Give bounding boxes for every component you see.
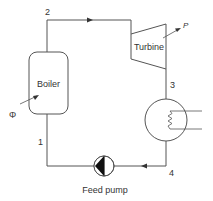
condenser <box>145 99 202 141</box>
pipe-state-2 <box>47 18 131 53</box>
state-label-1: 1 <box>38 137 43 147</box>
state-label-2: 2 <box>45 7 50 17</box>
pump-label: Feed pump <box>82 185 128 195</box>
state-label-3: 3 <box>170 80 175 90</box>
boiler-label: Boiler <box>37 79 60 89</box>
power-output-label: P <box>183 21 189 30</box>
heat-input-label: Φ <box>9 110 16 120</box>
feed-pump <box>94 156 114 176</box>
rankine-cycle-diagram: 2 Boiler Φ Turbine P 3 4 Feed pump <box>0 0 213 201</box>
arrow-head-icon <box>175 28 181 32</box>
turbine-label: Turbine <box>134 42 164 52</box>
state-label-4: 4 <box>169 168 174 178</box>
flow-arrow-icon <box>141 164 147 169</box>
pipe-state-1 <box>47 114 94 166</box>
flow-arrow-icon <box>87 18 93 23</box>
pipe-state-4 <box>114 141 166 169</box>
